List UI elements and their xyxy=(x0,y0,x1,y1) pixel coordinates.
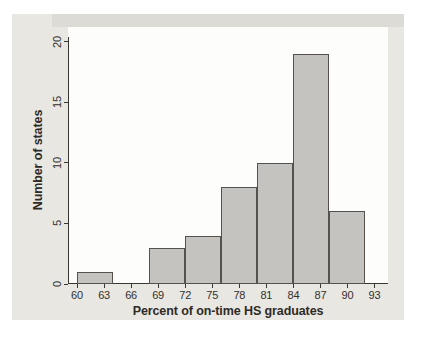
chart-canvas: 60636669727578818487909305101520 Percent… xyxy=(12,14,404,320)
y-tick-label: 20 xyxy=(51,27,63,57)
y-tick-label: 15 xyxy=(51,87,63,117)
y-tick xyxy=(64,102,68,103)
histogram-bar xyxy=(77,272,113,284)
histogram-bar xyxy=(185,236,221,285)
x-tick-label: 69 xyxy=(145,289,171,301)
x-tick-label: 93 xyxy=(362,289,388,301)
histogram-bar xyxy=(293,54,329,284)
x-tick-label: 90 xyxy=(334,289,360,301)
x-tick xyxy=(374,284,375,288)
x-tick xyxy=(320,284,321,288)
x-tick-label: 72 xyxy=(172,289,198,301)
x-tick xyxy=(77,284,78,288)
x-tick xyxy=(239,284,240,288)
x-tick xyxy=(185,284,186,288)
plot-area: 60636669727578818487909305101520 xyxy=(68,27,388,284)
y-tick xyxy=(64,223,68,224)
x-tick-label: 60 xyxy=(64,289,90,301)
y-tick-label: 5 xyxy=(51,208,63,238)
histogram-figure: 60636669727578818487909305101520 Percent… xyxy=(0,0,421,344)
histogram-bar xyxy=(329,211,365,284)
histogram-bar xyxy=(257,163,293,284)
x-axis-title: Percent of on-time HS graduates xyxy=(68,304,388,318)
x-tick-label: 87 xyxy=(307,289,333,301)
x-tick-label: 78 xyxy=(226,289,252,301)
histogram-bar xyxy=(221,187,257,284)
x-tick-label: 81 xyxy=(253,289,279,301)
histogram-bar xyxy=(149,248,185,284)
x-tick xyxy=(158,284,159,288)
y-tick xyxy=(64,41,68,42)
x-tick-label: 84 xyxy=(280,289,306,301)
x-tick xyxy=(293,284,294,288)
y-tick xyxy=(64,162,68,163)
x-tick-label: 63 xyxy=(91,289,117,301)
x-tick xyxy=(347,284,348,288)
x-tick xyxy=(212,284,213,288)
y-axis-line xyxy=(68,37,69,284)
y-tick-label: 10 xyxy=(51,148,63,178)
y-axis-title: Number of states xyxy=(31,80,45,240)
x-tick-label: 75 xyxy=(199,289,225,301)
x-tick-label: 66 xyxy=(118,289,144,301)
x-tick xyxy=(266,284,267,288)
scan-artifact-band xyxy=(52,14,404,27)
y-tick xyxy=(64,284,68,285)
y-tick-label: 0 xyxy=(51,269,63,299)
x-tick xyxy=(104,284,105,288)
x-tick xyxy=(131,284,132,288)
